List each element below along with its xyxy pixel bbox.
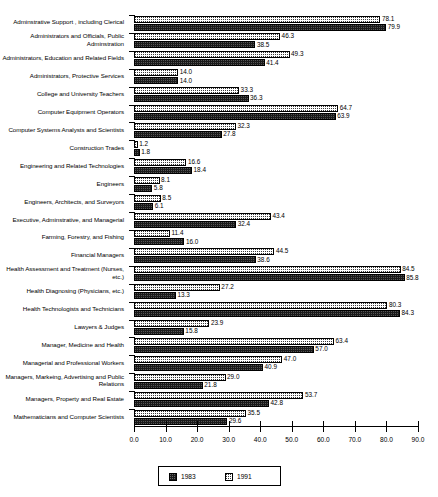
bar-1991: [134, 69, 178, 76]
axis-tick-label: 40.0: [245, 436, 275, 444]
bar-1991: [134, 159, 186, 166]
category-tick: [129, 266, 135, 267]
bar-value-1983: 40.9: [263, 363, 277, 370]
category-label: Managerial and Professional Workers: [0, 359, 124, 366]
category-tick: [129, 87, 135, 88]
bar-value-1991: 63.4: [334, 337, 348, 344]
category-label: Lawyers & Judges: [0, 323, 124, 330]
bar-1991: [134, 374, 226, 381]
legend-swatch-1991-icon: [225, 473, 233, 481]
bar-1983: [134, 310, 400, 317]
bar-group: 84.585.8: [134, 265, 418, 283]
axis-tick: [166, 421, 167, 432]
axis-tick: [418, 421, 419, 432]
bar-value-1983: 63.9: [336, 112, 350, 119]
bar-value-1983: 27.8: [222, 130, 236, 137]
axis-tick-label: 30.0: [214, 436, 244, 444]
category-label: Managers, Markeing, Advertising and Publ…: [0, 373, 124, 388]
bar-1983: [134, 274, 405, 281]
bar-value-1991: 23.9: [209, 319, 223, 326]
bar-value-1983: 5.8: [152, 184, 162, 191]
axis-tick-label: 20.0: [182, 436, 212, 444]
axis-tick: [386, 421, 387, 432]
bar-1983: [134, 364, 263, 371]
bar-group: 46.338.5: [134, 32, 418, 50]
bar-value-1983: 13.3: [176, 291, 190, 298]
bar-group: 8.56.1: [134, 193, 418, 211]
bar-1991: [134, 213, 271, 220]
bar-value-1991: 27.2: [220, 283, 234, 290]
category-tick: [129, 122, 135, 123]
category-label: Financial Managers: [0, 251, 124, 258]
bar-1983: [134, 292, 176, 299]
axis-tick: [134, 421, 135, 432]
bar-1991: [134, 87, 239, 94]
bar-1991: [134, 195, 161, 202]
bar-group: 8.15.8: [134, 175, 418, 193]
bar-value-1983: 14.0: [178, 77, 192, 84]
bar-1983: [134, 95, 249, 102]
category-label: Farming, Forestry, and Fishing: [0, 233, 124, 240]
chart-legend: 1983 1991: [158, 466, 281, 486]
bar-value-1983: 38.6: [256, 256, 270, 263]
bar-1991: [134, 302, 387, 309]
bar-value-1983: 85.8: [405, 274, 419, 281]
bar-group: 64.763.9: [134, 104, 418, 122]
bar-value-1983: 16.0: [184, 238, 198, 245]
category-tick: [129, 140, 135, 141]
bar-1983: [134, 400, 269, 407]
bar-1983: [134, 328, 184, 335]
bar-value-1991: 32.3: [236, 122, 250, 129]
bar-value-1991: 35.5: [246, 409, 260, 416]
bar-value-1983: 57.0: [314, 345, 328, 352]
category-label: Adminstrative Support , including Cleric…: [0, 18, 124, 25]
bar-group: 63.457.0: [134, 336, 418, 354]
bar-1991: [134, 51, 290, 58]
category-tick: [129, 33, 135, 34]
legend-label-1983: 1983: [181, 473, 196, 481]
category-label: Construction Trades: [0, 144, 124, 151]
axis-tick-label: 70.0: [340, 436, 370, 444]
bar-value-1991: 44.5: [274, 247, 288, 254]
bar-value-1983: 36.3: [249, 94, 263, 101]
bar-1983: [134, 185, 152, 192]
bar-value-1983: 18.4: [192, 166, 206, 173]
bar-group: 16.618.4: [134, 157, 418, 175]
category-label: Managers, Property and Real Estate: [0, 395, 124, 402]
bar-1983: [134, 59, 265, 66]
axis-tick: [355, 421, 356, 432]
axis-tick-label: 80.0: [371, 436, 401, 444]
bar-value-1991: 46.3: [280, 32, 294, 39]
category-tick: [129, 248, 135, 249]
bar-value-1983: 41.4: [265, 59, 279, 66]
bar-chart: Adminstrative Support , including Cleric…: [0, 0, 438, 497]
bar-1991: [134, 356, 282, 363]
bar-value-1983: 32.4: [236, 220, 250, 227]
bar-1983: [134, 203, 153, 210]
category-tick: [129, 302, 135, 303]
bar-1983: [134, 41, 255, 48]
category-label: Mathematicians and Computer Scientists: [0, 413, 124, 420]
bar-value-1991: 84.5: [401, 265, 415, 272]
category-tick: [129, 230, 135, 231]
bar-1983: [134, 346, 314, 353]
legend-swatch-1983-icon: [169, 473, 177, 481]
value-axis-line: [134, 426, 418, 427]
bar-1991: [134, 410, 246, 417]
bar-value-1983: 21.8: [203, 381, 217, 388]
bar-1983: [134, 131, 222, 138]
bar-1991: [134, 248, 274, 255]
bar-1991: [134, 123, 236, 130]
bar-1983: [134, 113, 336, 120]
bar-value-1991: 80.3: [387, 301, 401, 308]
bar-group: 23.915.8: [134, 319, 418, 337]
bar-1983: [134, 238, 184, 245]
bar-group: 78.179.9: [134, 14, 418, 32]
bar-value-1991: 16.6: [186, 158, 200, 165]
category-tick: [129, 194, 135, 195]
axis-tick: [323, 421, 324, 432]
bar-value-1991: 8.1: [160, 176, 170, 183]
category-label: Executive, Adminstrative, and Managerial: [0, 216, 124, 223]
bar-value-1983: 79.9: [386, 23, 400, 30]
bar-1983: [134, 167, 192, 174]
